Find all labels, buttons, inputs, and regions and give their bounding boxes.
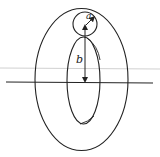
inner-curve-top	[87, 38, 100, 60]
guide-line	[0, 68, 160, 69]
label-a: a	[86, 11, 91, 21]
inner-ellipse	[67, 37, 100, 124]
horizontal-axis	[6, 82, 153, 83]
outer-ellipse	[35, 9, 128, 151]
torus-diagram: a b	[0, 0, 160, 157]
label-b: b	[76, 53, 83, 66]
